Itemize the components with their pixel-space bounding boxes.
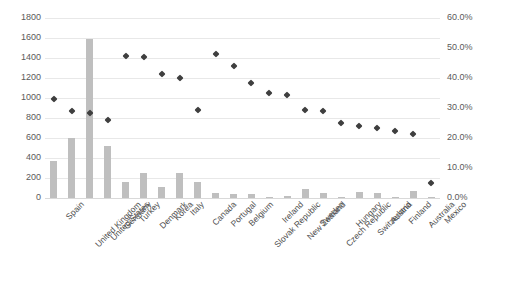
bar [176,173,183,199]
bar [230,194,237,199]
data-point-marker [212,50,219,57]
data-point-marker [302,106,309,113]
y-axis-left: 020040060080010001200140016001800 [0,18,41,198]
x-axis-tick-label: Sweden [318,200,346,228]
data-point-marker [338,119,345,126]
data-point-marker [248,79,255,86]
y-axis-right-tick-label: 10.0% [447,163,473,172]
data-point-marker [266,89,273,96]
y-axis-right-tick-label: 60.0% [447,13,473,22]
data-point-marker [320,107,327,114]
data-point-marker [392,127,399,134]
data-point-marker [230,62,237,69]
chart-container: 020040060080010001200140016001800 0.0%10… [0,0,508,283]
bar [248,194,255,199]
bar [284,196,291,199]
y-axis-right-tick-label: 40.0% [447,73,473,82]
gridline [45,78,440,79]
bar [266,197,273,198]
data-point-marker [356,122,363,129]
gridline [45,18,440,19]
y-axis-left-tick-label: 400 [26,153,41,162]
data-point-marker [176,74,183,81]
y-axis-left-tick-label: 1800 [21,13,41,22]
gridline [45,138,440,139]
bar [68,138,75,198]
bar [50,161,57,198]
data-point-marker [410,130,417,137]
y-axis-left-tick-label: 800 [26,113,41,122]
x-axis-category-labels: SpainUnited KingdomUnited StatesGermanyT… [45,200,440,283]
bar [212,193,219,198]
y-axis-right-tick-label: 20.0% [447,133,473,142]
bar [140,173,147,199]
bar [392,197,399,199]
y-axis-left-tick-label: 1400 [21,53,41,62]
bar [158,187,165,198]
bar [86,39,93,198]
y-axis-right-tick-label: 30.0% [447,103,473,112]
y-axis-left-tick-label: 200 [26,173,41,182]
bar [410,191,417,198]
y-axis-left-tick-label: 1600 [21,33,41,42]
bar [104,146,111,198]
gridline [45,58,440,59]
y-axis-right: 0.0%10.0%20.0%30.0%40.0%50.0%60.0% [447,18,507,198]
bar [374,193,381,199]
plot-area [45,18,440,198]
bar [428,197,435,198]
data-point-marker [427,179,434,186]
gridline [45,98,440,99]
data-point-marker [158,70,165,77]
gridline [45,38,440,39]
data-point-marker [374,124,381,131]
y-axis-right-tick-label: 50.0% [447,43,473,52]
data-point-marker [194,106,201,113]
bar [194,182,201,198]
bar [356,192,363,198]
bar [302,189,309,198]
y-axis-left-tick-label: 1200 [21,73,41,82]
bar [320,193,327,199]
data-point-marker [140,53,147,60]
y-axis-left-tick-label: 600 [26,133,41,142]
bar [122,182,129,199]
x-axis-tick-label: Spain [64,200,85,221]
y-axis-left-tick-label: 0 [36,193,41,202]
y-axis-left-tick-label: 1000 [21,93,41,102]
data-point-marker [68,107,75,114]
